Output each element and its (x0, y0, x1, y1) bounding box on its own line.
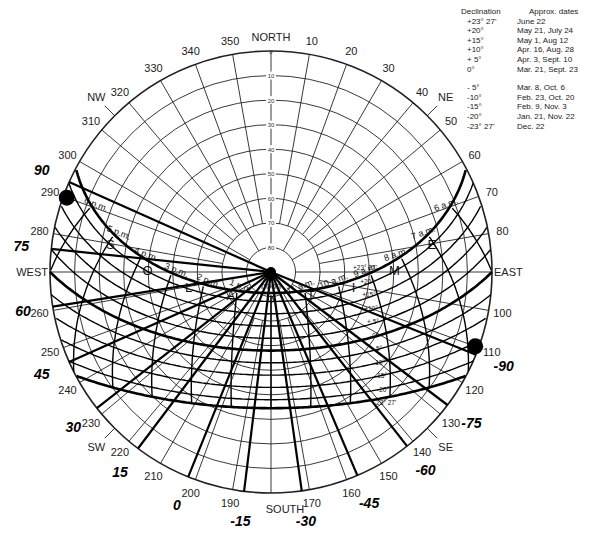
azimuth-label: 340 (181, 45, 199, 57)
compass-label-east: EAST (494, 266, 523, 278)
legend-declination: - 5° (455, 83, 517, 93)
azimuth-label: 110 (483, 346, 501, 358)
azimuth-label: 250 (41, 346, 59, 358)
azimuth-spoke (288, 64, 347, 226)
azimuth-label: 170 (303, 497, 321, 509)
legend-dates: Feb. 23, Oct. 20 (517, 93, 574, 103)
legend-declination: +20° (455, 26, 517, 36)
legend-dates: Dec. 22 (517, 122, 545, 132)
legend-row: -15°Feb. 9, Nov. 3 (455, 102, 592, 112)
legend-row: - 5°Mar. 8, Oct. 6 (455, 83, 592, 93)
legend-declination: +15° (455, 36, 517, 46)
protractor-label: 0 (173, 497, 181, 513)
altitude-label: 20 (268, 98, 275, 104)
solar-time-letter: S (106, 237, 115, 252)
azimuth-label: 210 (144, 470, 162, 482)
azimuth-label: 230 (82, 417, 100, 429)
azimuth-label: 310 (82, 115, 100, 127)
azimuth-label: 40 (416, 86, 428, 98)
compass-label-west: WEST (16, 266, 48, 278)
legend-declination: + 5° (455, 55, 517, 65)
declination-label: -23° 27' (374, 399, 396, 406)
declination-label: +23° 27' (353, 264, 377, 271)
protractor-label: 45 (33, 366, 50, 382)
legend-declination: +23° 27' (455, 17, 517, 27)
legend-row: + 5°Apr. 3, Sept. 10 (455, 55, 592, 65)
azimuth-label: 130 (442, 417, 460, 429)
azimuth-spoke (233, 54, 263, 223)
azimuth-label: 10 (306, 35, 318, 47)
legend-row: +10°Apr. 16, Aug. 28 (455, 45, 592, 55)
compass-label-se: SE (438, 441, 453, 453)
declination-label: + 5° (367, 318, 379, 325)
compass-label-sw: SW (87, 441, 105, 453)
compass-tick (427, 428, 437, 438)
azimuth-label: 240 (58, 384, 76, 396)
compass-label-north: NORTH (252, 31, 291, 43)
protractor-label: -30 (296, 513, 316, 529)
azimuth-label: 260 (30, 307, 48, 319)
altitude-label: 80 (268, 245, 275, 251)
protractor-label: -60 (415, 462, 435, 478)
declination-label: +10° (364, 305, 378, 312)
legend-dates: June 22 (517, 17, 545, 27)
legend-row: 0°Mar. 21, Sept. 23 (455, 65, 592, 75)
legend-row: -23° 27'Dec. 22 (455, 122, 592, 132)
solar-time-letter: A (227, 288, 236, 303)
solar-time-letter: E (427, 237, 436, 252)
legend-rows-south: - 5°Mar. 8, Oct. 6-10°Feb. 23, Oct. 20-1… (455, 83, 592, 131)
legend-declination: 0° (455, 65, 517, 75)
compass-tick (105, 428, 115, 438)
legend-row: +15°May 1, Aug 12 (455, 36, 592, 46)
legend-dates: Mar. 8, Oct. 6 (517, 83, 565, 93)
legend-rows-north: +23° 27'June 22+20°May 21, July 24+15°Ma… (455, 17, 592, 75)
legend-dates: Apr. 3, Sept. 10 (517, 55, 572, 65)
legend-row: -10°Feb. 23, Oct. 20 (455, 93, 592, 103)
compass-tick (427, 106, 437, 116)
legend-dates: May 1, Aug 12 (517, 36, 568, 46)
solar-time-letter: L (185, 280, 192, 295)
hour-label: 10 a.m. (318, 271, 350, 291)
legend-declination-header: Declination (455, 7, 529, 17)
azimuth-label: 200 (181, 487, 199, 499)
azimuth-label: 290 (41, 186, 59, 198)
azimuth-label: 100 (493, 307, 511, 319)
altitude-label: 40 (268, 147, 275, 153)
azimuth-label: 320 (111, 86, 129, 98)
altitude-label: 60 (268, 196, 275, 202)
azimuth-label: 120 (465, 384, 483, 396)
azimuth-label: 300 (58, 149, 76, 161)
protractor-label: 30 (65, 419, 81, 435)
azimuth-label: 80 (496, 225, 508, 237)
declination-legend: Declination Approx. dates +23° 27'June 2… (455, 7, 592, 131)
protractor-label: -90 (494, 358, 514, 374)
azimuth-spoke (161, 81, 259, 251)
solar-time-letter: I (352, 280, 356, 295)
azimuth-label: 160 (342, 487, 360, 499)
altitude-label: 30 (268, 122, 275, 128)
legend-dates: Jan. 21, Nov. 22 (517, 112, 575, 122)
azimuth-spoke (280, 54, 310, 223)
legend-declination: -15° (455, 102, 517, 112)
compass-label-ne: NE (438, 91, 453, 103)
legend-header: Declination Approx. dates (455, 7, 592, 17)
legend-declination: -20° (455, 112, 517, 122)
protractor-label: 90 (34, 162, 50, 178)
declination-label: -15° (375, 372, 387, 379)
azimuth-label: 60 (468, 149, 480, 161)
legend-dates: May 21, July 24 (517, 26, 573, 36)
altitude-label: 10 (268, 73, 275, 79)
declination-label: +20° (360, 278, 374, 285)
azimuth-spoke (283, 81, 381, 251)
protractor-label: 60 (15, 303, 31, 319)
azimuth-label: 350 (221, 35, 239, 47)
solar-time-letter: M (389, 263, 400, 278)
protractor-label: -75 (461, 415, 481, 431)
legend-row: +20°May 21, July 24 (455, 26, 592, 36)
legend-declination: -23° 27' (455, 122, 517, 132)
azimuth-label: 190 (221, 497, 239, 509)
protractor-label: -15 (230, 513, 250, 529)
azimuth-spoke (195, 64, 254, 226)
compass-tick (105, 106, 115, 116)
legend-dates: Feb. 9, Nov. 3 (517, 102, 567, 112)
